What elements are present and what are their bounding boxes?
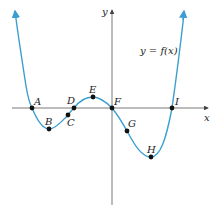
function-label: y = f(x) (139, 45, 178, 56)
svg-text:F: F (113, 96, 122, 107)
function-curve (26, 14, 184, 157)
function-graph: x y y = f(x) A B C D E F G H I (0, 0, 217, 208)
svg-text:B: B (44, 116, 52, 127)
svg-text:E: E (88, 84, 97, 95)
svg-text:I: I (174, 96, 180, 107)
point-g: G (125, 118, 136, 133)
svg-text:G: G (128, 118, 136, 129)
svg-text:D: D (66, 95, 75, 106)
svg-text:C: C (67, 117, 75, 128)
y-axis-label: y (101, 6, 108, 17)
point-b: B (44, 116, 52, 131)
x-axis-label: x (204, 112, 210, 123)
svg-text:A: A (33, 96, 41, 107)
point-c: C (66, 113, 75, 128)
svg-text:H: H (146, 144, 156, 155)
